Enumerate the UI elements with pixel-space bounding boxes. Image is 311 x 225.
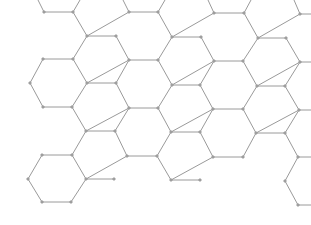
bond-line-edge bbox=[123, 0, 129, 12]
atom-node-icon bbox=[85, 130, 88, 133]
bond-line bbox=[73, 36, 87, 59]
atom-node-icon bbox=[70, 201, 73, 204]
bond-line bbox=[115, 131, 127, 156]
atom-node-icon bbox=[115, 82, 118, 85]
atom-node-icon bbox=[41, 201, 44, 204]
atom-node-icon bbox=[157, 11, 160, 14]
bond-line bbox=[72, 83, 87, 107]
bond-line bbox=[116, 83, 129, 108]
bond-line bbox=[285, 62, 300, 86]
atom-node-icon bbox=[297, 204, 300, 207]
bond-line bbox=[200, 85, 213, 109]
bond-line bbox=[72, 155, 86, 179]
atom-node-icon bbox=[171, 84, 174, 87]
bond-line-edge bbox=[158, 0, 165, 12]
atom-node-icon bbox=[156, 155, 159, 158]
atom-node-icon bbox=[42, 106, 45, 109]
atom-node-icon bbox=[171, 36, 174, 39]
atom-node-icon bbox=[43, 11, 46, 14]
bond-line bbox=[286, 38, 300, 62]
bond-line bbox=[285, 181, 298, 205]
bond-line bbox=[87, 12, 129, 36]
bond-line-edge bbox=[38, 0, 44, 12]
atom-node-icon bbox=[213, 12, 216, 15]
atom-node-icon bbox=[114, 130, 117, 133]
bond-line bbox=[157, 132, 171, 156]
atom-node-icon bbox=[199, 131, 202, 134]
atom-node-icon bbox=[284, 85, 287, 88]
bond-line bbox=[172, 13, 214, 37]
bond-line bbox=[172, 61, 214, 85]
bond-lines bbox=[28, 0, 311, 205]
bond-line bbox=[258, 14, 300, 38]
bond-line-edge bbox=[208, 0, 214, 13]
atom-node-icon bbox=[41, 154, 44, 157]
atom-node-icon bbox=[128, 107, 131, 110]
atom-node-icon bbox=[242, 60, 245, 63]
atom-node-icon bbox=[85, 178, 88, 181]
atom-node-icon bbox=[298, 109, 301, 112]
atom-nodes bbox=[27, 11, 302, 207]
bond-line-edge bbox=[73, 0, 80, 12]
bond-line bbox=[200, 132, 213, 157]
atom-node-icon bbox=[42, 58, 45, 61]
bond-line bbox=[243, 61, 257, 86]
bond-line bbox=[285, 86, 299, 110]
bond-line bbox=[244, 13, 258, 38]
atom-node-icon bbox=[128, 59, 131, 62]
atom-node-icon bbox=[72, 11, 75, 14]
bond-line bbox=[285, 157, 298, 181]
hexagonal-lattice-diagram bbox=[0, 0, 311, 225]
atom-node-icon bbox=[297, 156, 300, 159]
atom-node-icon bbox=[72, 58, 75, 61]
bond-line bbox=[243, 38, 258, 61]
atom-node-icon bbox=[113, 178, 116, 181]
bond-line bbox=[201, 37, 214, 61]
bond-line bbox=[243, 109, 256, 133]
atom-node-icon bbox=[257, 37, 260, 40]
atom-node-icon bbox=[170, 179, 173, 182]
atom-node-icon bbox=[242, 108, 245, 111]
atom-node-icon bbox=[243, 12, 246, 15]
bond-line bbox=[171, 157, 213, 180]
atom-node-icon bbox=[199, 179, 202, 182]
atom-node-icon bbox=[284, 132, 287, 135]
atom-node-icon bbox=[200, 36, 203, 39]
atom-node-icon bbox=[256, 85, 259, 88]
atom-node-icon bbox=[285, 37, 288, 40]
bond-line bbox=[158, 37, 172, 60]
atom-node-icon bbox=[212, 108, 215, 111]
bond-line bbox=[28, 155, 42, 179]
atom-node-icon bbox=[86, 82, 89, 85]
atom-node-icon bbox=[284, 180, 287, 183]
atom-node-icon bbox=[157, 107, 160, 110]
bond-line bbox=[158, 60, 172, 85]
bond-line bbox=[28, 179, 42, 202]
atom-node-icon bbox=[128, 11, 131, 14]
atom-node-icon bbox=[71, 154, 74, 157]
bond-line bbox=[86, 156, 127, 179]
atom-node-icon bbox=[71, 106, 74, 109]
atom-node-icon bbox=[299, 13, 302, 16]
atom-node-icon bbox=[213, 60, 216, 63]
bond-line bbox=[72, 107, 86, 131]
atom-node-icon bbox=[255, 132, 258, 135]
bond-line bbox=[73, 59, 87, 83]
bond-line bbox=[158, 108, 171, 132]
atom-node-icon bbox=[86, 35, 89, 38]
bond-line bbox=[30, 83, 43, 107]
bond-line bbox=[72, 131, 86, 155]
atom-node-icon bbox=[299, 61, 302, 64]
bond-line bbox=[257, 62, 300, 86]
bond-line bbox=[116, 36, 129, 60]
atom-node-icon bbox=[199, 84, 202, 87]
bond-line-edge bbox=[244, 0, 251, 13]
atom-node-icon bbox=[27, 178, 30, 181]
atom-node-icon bbox=[242, 156, 245, 159]
bond-line bbox=[30, 59, 43, 83]
atom-node-icon bbox=[115, 35, 118, 38]
bond-line bbox=[243, 86, 257, 109]
bond-line bbox=[157, 156, 171, 180]
atom-node-icon bbox=[126, 155, 129, 158]
bond-line bbox=[243, 133, 256, 157]
